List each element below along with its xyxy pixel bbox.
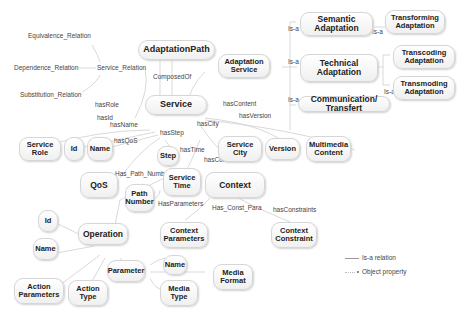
node-path-number[interactable]: Path Number — [125, 184, 154, 212]
node-step[interactable]: Step — [157, 146, 179, 166]
node-context-constraint[interactable]: Context Constraint — [271, 222, 317, 248]
equivalence-relation-label: Equivalence_Relation — [28, 32, 91, 39]
composed-of-label: ComposedOf — [153, 73, 191, 80]
node-id-operation[interactable]: Id — [38, 210, 58, 232]
dependence-relation-label: Dependence_Relation — [14, 64, 78, 71]
is-a-label: Is-a — [288, 25, 299, 32]
substitution-relation-label: Substitution_Relation — [20, 91, 81, 98]
node-name[interactable]: Name — [87, 137, 113, 161]
node-media-format[interactable]: Media Format — [213, 264, 253, 290]
service-relation-label: Service_Relation — [97, 64, 146, 71]
node-service-time[interactable]: Service Time — [163, 168, 201, 196]
node-version[interactable]: Version — [265, 138, 300, 160]
has-id-label: hasId — [97, 114, 113, 121]
node-communication-transfert[interactable]: Communication/ Transfert — [298, 96, 390, 112]
legend-object-property-line — [345, 272, 355, 273]
has-const-para-label: Has_Const_Para — [212, 204, 262, 211]
node-semantic-adaptation[interactable]: Semantic Adaptation — [300, 12, 373, 36]
node-service-city[interactable]: Service City — [218, 136, 262, 162]
node-operation[interactable]: Operation — [78, 223, 128, 245]
has-name-label: hasName — [110, 121, 138, 128]
has-parameters-label: HasParameters — [158, 200, 203, 207]
node-media-type[interactable]: Media Type — [160, 280, 198, 306]
node-technical-adaptation[interactable]: Technical Adaptation — [300, 54, 378, 82]
has-qos-label: hasQoS — [114, 137, 138, 144]
node-transcoding-adaptation[interactable]: Transcoding Adaptation — [393, 45, 455, 69]
has-version-label: hasVersion — [239, 112, 271, 119]
legend-is-a-label: Is-a relation — [362, 254, 396, 261]
has-step-label: hasStep — [160, 129, 184, 136]
node-service[interactable]: Service — [145, 95, 207, 115]
has-city-label: hasCity — [197, 120, 219, 127]
has-time-label: hasTime — [180, 146, 205, 153]
node-service-role[interactable]: Service Role — [19, 137, 61, 161]
node-multimedia-content[interactable]: Multimedia Content — [306, 136, 351, 162]
legend-arrow-icon — [357, 271, 359, 273]
has-role-label: hasRole — [95, 101, 119, 108]
legend-object-property-label: Object property — [362, 268, 406, 275]
node-adaptation-service[interactable]: Adaptation Service — [218, 54, 270, 78]
node-id[interactable]: Id — [64, 137, 84, 161]
is-a-label: Is-a — [372, 28, 383, 35]
node-context[interactable]: Context — [205, 172, 265, 198]
node-name-parameter[interactable]: Name — [163, 255, 187, 275]
has-content-label: hasContent — [223, 100, 256, 107]
is-a-label: Is-a — [288, 58, 299, 65]
node-action-parameters[interactable]: Action Parameters — [14, 278, 64, 304]
node-transforming-adaptation[interactable]: Transforming Adaptation — [385, 10, 445, 34]
node-qos[interactable]: QoS — [80, 172, 118, 198]
legend-is-a-line — [345, 258, 359, 259]
node-transmoding-adaptation[interactable]: Transmoding Adaptation — [393, 76, 455, 100]
node-action-type[interactable]: Action Type — [68, 280, 108, 306]
has-constraints-label: hasConstraints — [273, 206, 316, 213]
node-parameter[interactable]: Parameter — [107, 260, 145, 282]
node-name-operation[interactable]: Name — [33, 238, 58, 260]
has-path-number-label: Has_Path_Number — [115, 170, 170, 177]
node-adaptation-path[interactable]: AdaptationPath — [138, 40, 215, 60]
node-context-parameters[interactable]: Context Parameters — [160, 222, 208, 248]
